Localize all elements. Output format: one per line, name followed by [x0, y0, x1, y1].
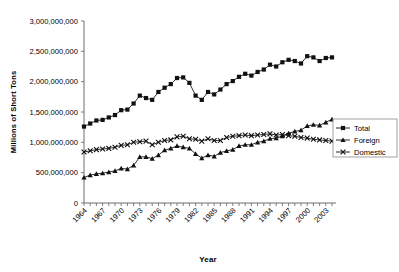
- x-axis-tick-labels: 1964196719701973197619791982198519881991…: [71, 206, 331, 224]
- data-point: [156, 140, 161, 145]
- x-tick-label: 1991: [238, 206, 256, 224]
- legend-marker-square: [341, 126, 345, 130]
- data-point: [230, 147, 235, 152]
- data-point: [298, 128, 303, 133]
- data-point: [119, 108, 123, 112]
- series-foreign: [81, 117, 334, 180]
- data-point: [187, 81, 191, 85]
- data-point: [237, 75, 241, 79]
- x-tick-label: 1985: [201, 206, 219, 224]
- x-tick-label: 1988: [219, 206, 237, 224]
- data-point: [169, 82, 173, 86]
- series-total: [82, 54, 334, 129]
- x-tick-label: 2003: [312, 206, 330, 224]
- waterborne-commerce-line-chart: 0500,000,0001,000,000,0001,500,000,0002,…: [0, 0, 399, 272]
- data-point: [212, 92, 216, 96]
- data-point: [199, 156, 204, 161]
- x-tick-label: 1973: [126, 206, 144, 224]
- x-tick-label: 1982: [182, 206, 200, 224]
- data-point: [88, 121, 92, 125]
- x-tick-label: 1997: [275, 206, 293, 224]
- x-axis-title: Year: [199, 255, 217, 264]
- data-point: [132, 101, 136, 105]
- y-tick-label: 2,000,000,000: [29, 77, 78, 86]
- data-point: [101, 118, 105, 122]
- legend: TotalForeignDomestic: [333, 119, 397, 157]
- data-point: [318, 59, 322, 63]
- data-point: [330, 55, 334, 59]
- x-tick-label: 1967: [89, 206, 107, 224]
- data-point: [262, 67, 266, 71]
- data-point: [323, 120, 328, 125]
- data-point: [138, 94, 142, 98]
- data-point: [249, 74, 253, 78]
- y-tick-label: 3,000,000,000: [29, 17, 78, 26]
- x-tick-label: 1964: [71, 206, 89, 224]
- data-point: [206, 136, 211, 141]
- data-point: [256, 70, 260, 74]
- data-point: [194, 94, 198, 98]
- legend-label: Domestic: [354, 148, 386, 157]
- data-point: [94, 118, 98, 122]
- x-tick-label: 1976: [145, 206, 163, 224]
- data-point: [218, 87, 222, 91]
- data-point: [181, 75, 185, 79]
- data-point: [163, 86, 167, 90]
- data-point: [150, 98, 154, 102]
- data-point: [299, 61, 303, 65]
- x-tick-label: 1970: [108, 206, 126, 224]
- data-point: [311, 55, 315, 59]
- y-tick-label: 500,000,000: [36, 168, 78, 177]
- data-point: [156, 90, 160, 94]
- y-tick-label: 1,500,000,000: [29, 108, 78, 117]
- x-tick-label: 1979: [164, 206, 182, 224]
- data-point: [205, 152, 210, 157]
- data-point: [113, 113, 117, 117]
- legend-label: Total: [354, 124, 370, 133]
- y-axis-title: Millions of Short Tons: [9, 71, 18, 154]
- x-tick-label: 1994: [257, 206, 275, 224]
- series-domestic: [82, 131, 335, 154]
- data-point: [287, 58, 291, 62]
- data-point: [150, 142, 155, 147]
- y-tick-label: 1,000,000,000: [29, 138, 78, 147]
- data-point: [225, 82, 229, 86]
- data-point: [125, 107, 129, 111]
- x-tick-label: 2000: [294, 206, 312, 224]
- y-tick-label: 0: [74, 199, 78, 208]
- data-point: [293, 59, 297, 63]
- data-point: [82, 124, 86, 128]
- legend-label: Foreign: [354, 136, 380, 145]
- data-point: [199, 139, 204, 144]
- data-point: [268, 63, 272, 67]
- x-axis-minor-ticks: [84, 203, 332, 206]
- data-point: [175, 76, 179, 80]
- data-point: [280, 60, 284, 64]
- data-point: [174, 143, 179, 148]
- data-point: [274, 64, 278, 68]
- data-point: [324, 56, 328, 60]
- data-point: [144, 96, 148, 100]
- y-axis-ticks: 0500,000,0001,000,000,0001,500,000,0002,…: [29, 17, 84, 208]
- data-point: [107, 115, 111, 119]
- y-tick-label: 2,500,000,000: [29, 47, 78, 56]
- data-point: [243, 72, 247, 76]
- chart-canvas: 0500,000,0001,000,000,0001,500,000,0002,…: [0, 0, 399, 272]
- data-point: [231, 79, 235, 83]
- data-point: [206, 90, 210, 94]
- data-point: [200, 98, 204, 102]
- data-point: [305, 54, 309, 58]
